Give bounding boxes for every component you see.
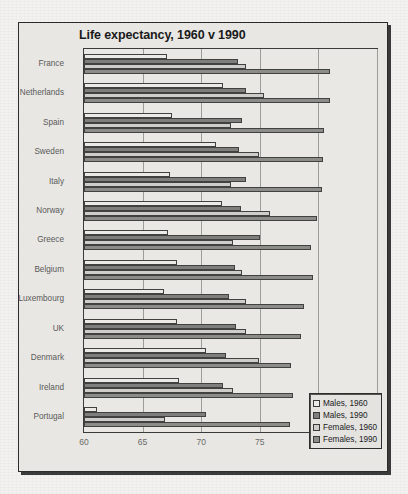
category-label: Portugal (0, 412, 64, 421)
x-tick-label: 60 (79, 437, 88, 447)
category-label: Spain (0, 118, 64, 127)
category-label: Netherlands (0, 88, 64, 97)
chart-legend: Males, 1960Males, 1990Females, 1960Femal… (309, 393, 382, 449)
x-tick-label: 70 (196, 437, 205, 447)
category-label: Norway (0, 206, 64, 215)
category-label: France (0, 59, 64, 68)
category-row: France (84, 49, 377, 78)
category-label: Sweden (0, 147, 64, 156)
bar (84, 128, 324, 133)
category-label: Luxembourg (0, 294, 64, 303)
legend-item[interactable]: Males, 1960 (313, 397, 377, 409)
category-row: Netherlands (84, 78, 377, 107)
bar (84, 275, 313, 280)
legend-item[interactable]: Males, 1990 (313, 409, 377, 421)
bar (84, 98, 330, 103)
chart-title: Life expectancy, 1960 v 1990 (79, 28, 246, 42)
legend-label: Females, 1990 (323, 435, 377, 444)
bar (84, 393, 293, 398)
bar (84, 334, 301, 339)
bar (84, 216, 317, 221)
bar (84, 187, 322, 192)
category-label: UK (0, 324, 64, 333)
legend-swatch-icon (313, 400, 320, 407)
legend-label: Males, 1960 (323, 399, 368, 408)
bar (84, 422, 290, 427)
plot-area: FranceNetherlandsSpainSwedenItalyNorwayG… (83, 48, 378, 433)
legend-swatch-icon (313, 436, 320, 443)
category-label: Italy (0, 177, 64, 186)
legend-item[interactable]: Females, 1990 (313, 433, 377, 445)
legend-swatch-icon (313, 412, 320, 419)
category-label: Ireland (0, 383, 64, 392)
x-tick-label: 75 (255, 437, 264, 447)
bar (84, 245, 311, 250)
category-label: Denmark (0, 353, 64, 362)
legend-label: Females, 1960 (323, 423, 377, 432)
x-tick-label: 65 (138, 437, 147, 447)
legend-item[interactable]: Females, 1960 (313, 421, 377, 433)
category-row: UK (84, 314, 377, 343)
category-label: Belgium (0, 265, 64, 274)
bar (84, 157, 323, 162)
category-row: Luxembourg (84, 285, 377, 314)
bar (84, 304, 304, 309)
legend-label: Males, 1990 (323, 411, 368, 420)
category-row: Sweden (84, 137, 377, 166)
bar (84, 363, 291, 368)
chart-frame: Life expectancy, 1960 v 1990 FranceNethe… (18, 22, 388, 472)
category-row: Spain (84, 108, 377, 137)
category-row: Greece (84, 226, 377, 255)
chart-page: Life expectancy, 1960 v 1990 FranceNethe… (0, 0, 408, 494)
category-label: Greece (0, 235, 64, 244)
gridline-85 (377, 49, 378, 432)
category-row: Italy (84, 167, 377, 196)
category-row: Norway (84, 196, 377, 225)
category-row: Belgium (84, 255, 377, 284)
legend-swatch-icon (313, 424, 320, 431)
category-row: Denmark (84, 344, 377, 373)
bar (84, 69, 330, 74)
